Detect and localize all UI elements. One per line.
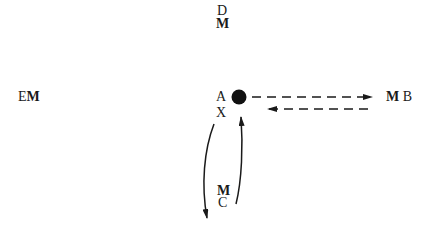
edge-a-to-c-arrow-icon: [204, 124, 214, 218]
node-a-dot-icon: [232, 90, 247, 105]
diagram-canvas: [0, 0, 432, 225]
edge-c-to-a-arrow-icon: [236, 117, 242, 204]
